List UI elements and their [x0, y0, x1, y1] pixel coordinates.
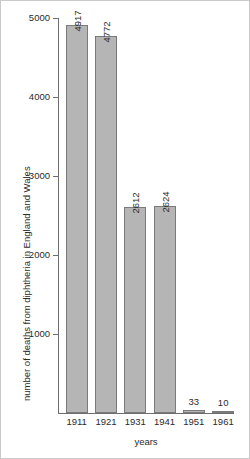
- bar[interactable]: [183, 410, 205, 413]
- x-axis-title: years: [58, 437, 234, 447]
- chart-page: 10002000300040005000 4917477226122624331…: [0, 0, 250, 459]
- y-axis-title: number of deaths from diphtheria in Engl…: [22, 41, 32, 401]
- bar[interactable]: [95, 36, 117, 413]
- y-axis-tick-mark: [53, 255, 59, 256]
- bar-value-label: 10: [205, 398, 242, 408]
- y-axis-tick-mark: [53, 18, 59, 19]
- bar[interactable]: [66, 25, 88, 413]
- bar-value-label: 4772: [101, 21, 111, 42]
- y-axis-tick-label: 5000: [1, 13, 50, 23]
- bar[interactable]: [154, 206, 176, 413]
- x-axis-line: [58, 413, 234, 414]
- bar-value-label: 2612: [131, 192, 141, 213]
- bar-chart: 10002000300040005000 4917477226122624331…: [1, 1, 250, 459]
- bar[interactable]: [124, 207, 146, 413]
- bar-value-label: 4917: [72, 10, 82, 31]
- y-axis-line: [58, 18, 59, 414]
- bar[interactable]: [212, 411, 234, 413]
- y-axis-tick-mark: [53, 334, 59, 335]
- x-axis-tick-label: 1961: [204, 417, 243, 427]
- bar-value-label: 2624: [160, 191, 170, 212]
- y-axis-tick-mark: [53, 176, 59, 177]
- y-axis-tick-mark: [53, 97, 59, 98]
